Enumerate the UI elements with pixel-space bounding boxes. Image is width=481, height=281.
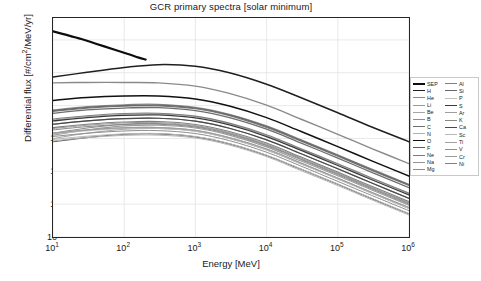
legend-item-si[interactable]: Si — [445, 87, 477, 94]
legend-item-n[interactable]: N — [413, 130, 445, 137]
legend-item-sep[interactable]: SEP — [413, 80, 445, 87]
legend-label: He — [427, 95, 434, 101]
legend-swatch-icon — [413, 162, 425, 163]
curve-h — [53, 65, 409, 142]
legend-swatch-icon — [413, 140, 425, 141]
legend-item-k[interactable]: K — [445, 116, 477, 123]
legend-label: F — [427, 145, 430, 151]
chart-title: GCR primary spectra [solar minimum] — [52, 1, 410, 12]
legend-label: O — [427, 138, 431, 144]
legend-item-ne[interactable]: Ne — [413, 152, 445, 159]
legend-swatch-icon — [445, 134, 457, 135]
legend-label: P — [459, 95, 463, 101]
legend-label: Ar — [459, 110, 464, 116]
x-tick-label: 102 — [103, 241, 143, 253]
legend-swatch-icon — [445, 90, 457, 91]
legend-swatch-icon — [413, 97, 425, 98]
legend-item-b[interactable]: B — [413, 116, 445, 123]
legend-item-be[interactable]: Be — [413, 109, 445, 116]
legend-label: H — [427, 88, 431, 94]
legend-label: V — [459, 146, 463, 152]
legend-label: Na — [427, 159, 434, 165]
legend-swatch-icon — [413, 112, 425, 113]
y-axis-label-exponent: 2 — [21, 49, 28, 53]
curve-fe-low — [53, 135, 409, 215]
x-tick-label: 106 — [388, 241, 428, 253]
legend-label: N — [427, 131, 431, 137]
legend-swatch-icon — [445, 112, 457, 113]
legend-item-al[interactable]: Al — [445, 80, 477, 87]
legend-item-o[interactable]: O — [413, 137, 445, 144]
legend-swatch-icon — [445, 142, 457, 143]
legend-item-c[interactable]: C — [413, 123, 445, 130]
legend-swatch-icon — [445, 163, 457, 164]
legend-swatch-icon — [413, 169, 425, 170]
legend-swatch-icon — [413, 119, 425, 120]
legend-item-p[interactable]: P — [445, 95, 477, 102]
curve-group — [53, 31, 409, 215]
legend-swatch-icon — [445, 156, 457, 157]
legend-swatch-icon — [445, 120, 457, 121]
legend-label: Al — [459, 81, 464, 87]
legend-item-ar[interactable]: Ar — [445, 109, 477, 116]
legend-swatch-icon — [413, 83, 425, 85]
legend-swatch-icon — [445, 105, 457, 106]
legend-label: Ne — [427, 152, 434, 158]
legend-item-sc[interactable]: Sc — [445, 131, 477, 138]
legend-item-v[interactable]: V — [445, 146, 477, 153]
legend-label: Si — [459, 88, 464, 94]
legend-item-mg[interactable]: Mg — [413, 166, 445, 173]
legend-label: Cr — [459, 154, 465, 160]
x-tick-label: 105 — [317, 241, 357, 253]
legend-item-s[interactable]: S — [445, 102, 477, 109]
legend-swatch-icon — [413, 147, 425, 148]
legend-item-he[interactable]: He — [413, 94, 445, 101]
legend-item-cr[interactable]: Cr — [445, 153, 477, 160]
chart-canvas: GCR primary spectra [solar minimum] Diff… — [0, 0, 481, 281]
legend-label: B — [427, 116, 431, 122]
legend-swatch-icon — [413, 126, 425, 127]
legend-item-ni[interactable]: Ni — [445, 160, 477, 167]
curve-be — [53, 128, 409, 208]
curve-sep — [53, 31, 146, 59]
legend-label: S — [459, 103, 463, 109]
spectra-lines — [53, 18, 409, 237]
legend-swatch-icon — [445, 98, 457, 99]
legend-item-li[interactable]: Li — [413, 101, 445, 108]
legend-label: Sc — [459, 132, 465, 138]
legend-label: Ti — [459, 139, 463, 145]
x-tick-label: 101 — [32, 241, 72, 253]
legend-swatch-icon — [445, 149, 457, 150]
legend-swatch-icon — [413, 155, 425, 156]
legend-item-ca[interactable]: Ca — [445, 124, 477, 131]
legend-label: C — [427, 124, 431, 130]
legend-label: Mg — [427, 166, 435, 172]
legend-item-ti[interactable]: Ti — [445, 138, 477, 145]
legend-column-2: AlSiPSArKCaScTiVCrNi — [445, 80, 477, 173]
legend-swatch-icon — [413, 105, 425, 106]
legend-item-h[interactable]: H — [413, 87, 445, 94]
legend-swatch-icon — [445, 83, 457, 84]
x-tick-label: 104 — [246, 241, 286, 253]
legend[interactable]: SEPHHeLiBeBCNOFNeNaMgAlSiPSArKCaScTiVCrN… — [410, 77, 479, 176]
x-axis-label: Energy [MeV] — [52, 258, 410, 269]
legend-column-1: SEPHHeLiBeBCNOFNeNaMg — [413, 80, 445, 173]
legend-swatch-icon — [413, 90, 425, 91]
legend-label: Be — [427, 109, 434, 115]
legend-label: SEP — [427, 81, 438, 87]
legend-label: Li — [427, 102, 431, 108]
legend-label: Ni — [459, 161, 464, 167]
legend-swatch-icon — [445, 127, 457, 128]
legend-label: Ca — [459, 124, 466, 130]
curve-p — [53, 128, 409, 208]
legend-swatch-icon — [413, 133, 425, 134]
x-tick-label: 103 — [174, 241, 214, 253]
legend-item-f[interactable]: F — [413, 144, 445, 151]
legend-label: K — [459, 117, 463, 123]
legend-item-na[interactable]: Na — [413, 159, 445, 166]
plot-area — [52, 17, 410, 238]
